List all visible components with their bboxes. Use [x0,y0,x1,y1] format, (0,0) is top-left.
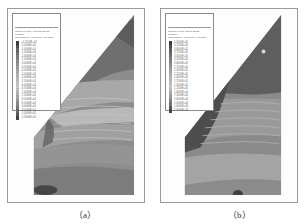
color-swatch [169,109,172,113]
panel-b-max-shear-stress: Contour of Max. Shear Stress Plasticity … [160,8,298,203]
legend-a: Contour of Max. Principal Stress Plastic… [12,13,61,111]
legend-values: 4.5000E+054.2500E+054.0000E+053.7500E+05… [174,41,188,113]
legend-value: 5.0000E+03 [174,109,188,113]
legend-title: Contour of Max. Shear Stress Plasticity … [168,30,206,39]
legend-divider [15,27,58,28]
color-scale [16,41,19,120]
panel-a-max-principal-stress: Contour of Max. Principal Stress Plastic… [7,8,145,203]
color-scale [169,41,172,113]
legend-divider [168,27,211,28]
legend-value: -1.0500E+05 [21,116,37,120]
color-swatch [16,116,19,120]
legend-b: Contour of Max. Shear Stress Plasticity … [165,13,214,111]
legend-values: +1.5503E+03-5.0000E+03-1.0000E+04-1.5000… [21,41,37,120]
caption-a: （a） [74,208,96,221]
caption-b: （b） [228,208,251,221]
legend-title: Contour of Max. Principal Stress Plastic… [15,30,53,39]
